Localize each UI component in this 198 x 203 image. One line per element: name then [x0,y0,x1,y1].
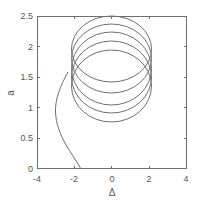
phase-plot: -4 -2 0 2 4 0 0.5 1 1.5 2 2.5 Δ a [0,0,198,203]
x-tick-labels: -4 -2 0 2 4 [33,174,189,184]
closed-curve-1 [72,16,152,82]
x-tick-label: 4 [183,174,188,184]
y-tick-label: 0.5 [20,133,33,143]
closed-curve-3 [72,32,152,105]
y-tick-label: 2.5 [20,11,33,21]
x-tick-label: -4 [33,174,41,184]
y-tick-label: 1.5 [20,72,33,82]
y-tick-label: 0 [28,164,33,174]
closed-curve-5 [72,50,152,122]
x-tick-label: -2 [70,174,78,184]
y-axis-label: a [5,90,16,96]
closed-curve-2 [72,24,152,93]
x-tick-label: 2 [146,174,151,184]
y-tick-labels: 0 0.5 1 1.5 2 2.5 [20,11,33,174]
x-axis-label: Δ [109,187,116,198]
y-tick-label: 2 [28,42,33,52]
y-tick-label: 1 [28,103,33,113]
x-tick-label: 0 [109,174,114,184]
closed-curve-4 [72,41,152,113]
curves [55,16,151,169]
